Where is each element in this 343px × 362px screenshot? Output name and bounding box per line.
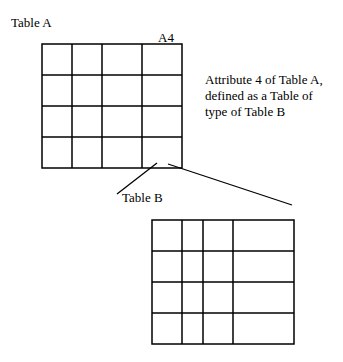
table-b-grid (152, 220, 294, 344)
diagram-canvas (0, 0, 343, 362)
table-a-grid (42, 44, 182, 168)
connector-lines (117, 163, 292, 205)
